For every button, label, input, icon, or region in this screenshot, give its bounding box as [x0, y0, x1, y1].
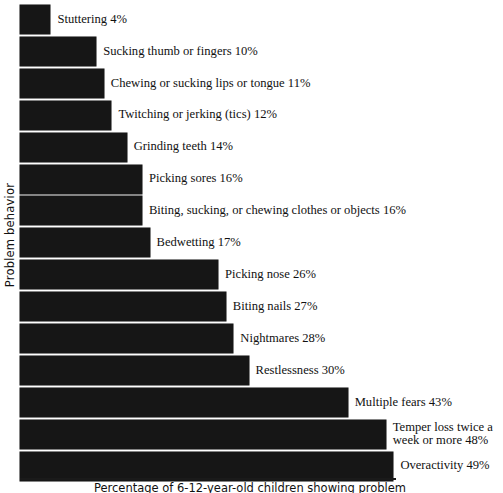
- bar-value-label: Stuttering 4%: [50, 13, 127, 26]
- bar-row: Twitching or jerking (tics) 12%: [20, 101, 277, 130]
- bar: [20, 324, 233, 353]
- bar: [20, 228, 150, 257]
- bar: [20, 452, 393, 481]
- bar: [20, 356, 249, 385]
- bar-value-label: Temper loss twice a week or more 48%: [386, 421, 493, 448]
- y-axis-title-label: Problem behavior: [3, 183, 17, 287]
- bar-row: Nightmares 28%: [20, 324, 325, 353]
- bar-row: Biting nails 27%: [20, 292, 317, 321]
- bar-row: Temper loss twice a week or more 48%: [20, 420, 493, 449]
- bar-row: Bedwetting 17%: [20, 228, 241, 257]
- bar: [20, 292, 226, 321]
- bar-value-label: Biting nails 27%: [226, 300, 318, 313]
- bar-value-label: Overactivity 49%: [393, 459, 489, 472]
- bar-row: Picking nose 26%: [20, 260, 316, 289]
- bar: [20, 133, 127, 162]
- bar: [20, 37, 96, 66]
- bar-value-label: Bedwetting 17%: [150, 236, 241, 249]
- bar: [20, 420, 386, 449]
- bar: [20, 5, 50, 34]
- bar-row: Overactivity 49%: [20, 452, 490, 481]
- bar-value-label: Picking sores 16%: [142, 172, 243, 185]
- bar-row: Biting, sucking, or chewing clothes or o…: [20, 196, 406, 225]
- bar: [20, 101, 111, 130]
- bar: [20, 260, 218, 289]
- plot-area: Stuttering 4%Sucking thumb or fingers 10…: [20, 0, 503, 478]
- bar-value-label: Multiple fears 43%: [348, 396, 452, 409]
- bar-value-label: Chewing or sucking lips or tongue 11%: [104, 77, 311, 90]
- bar-value-label: Biting, sucking, or chewing clothes or o…: [142, 204, 406, 217]
- bar-value-label: Picking nose 26%: [218, 268, 316, 281]
- x-axis-title: Percentage of 6-12-year-old children sho…: [20, 481, 480, 493]
- bar-row: Multiple fears 43%: [20, 388, 452, 417]
- bar: [20, 69, 104, 98]
- bar-value-label: Sucking thumb or fingers 10%: [96, 45, 258, 58]
- y-axis-title: Problem behavior: [0, 0, 20, 470]
- bar-value-label: Nightmares 28%: [233, 332, 325, 345]
- bar-value-label: Grinding teeth 14%: [127, 140, 233, 153]
- bar-value-label: Twitching or jerking (tics) 12%: [111, 108, 277, 121]
- bar: [20, 165, 142, 194]
- bar-row: Restlessness 30%: [20, 356, 345, 385]
- bar-value-label: Restlessness 30%: [249, 364, 345, 377]
- horizontal-bar-chart: Problem behavior Stuttering 4%Sucking th…: [0, 0, 503, 493]
- bar-row: Grinding teeth 14%: [20, 133, 233, 162]
- x-axis-line: [20, 478, 396, 480]
- bar: [20, 388, 348, 417]
- bar: [20, 196, 142, 225]
- bar-row: Picking sores 16%: [20, 165, 243, 194]
- bar-row: Sucking thumb or fingers 10%: [20, 37, 258, 66]
- bar-row: Chewing or sucking lips or tongue 11%: [20, 69, 310, 98]
- bar-row: Stuttering 4%: [20, 5, 127, 34]
